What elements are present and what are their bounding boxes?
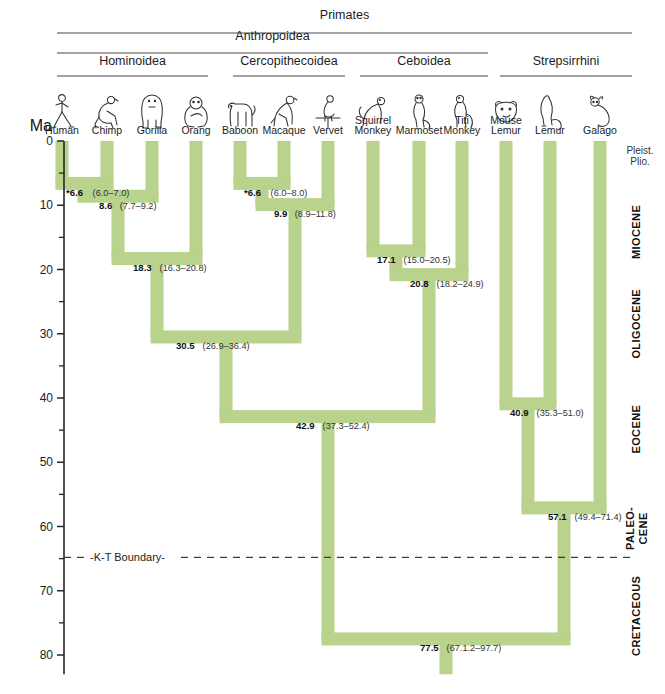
clade-label: Primates bbox=[320, 8, 369, 22]
clade-Ceboidea: Ceboidea bbox=[360, 54, 488, 76]
node-ci: (37.3–52.4) bbox=[323, 421, 370, 431]
epoch-cretaceous: CRETACEOUS bbox=[630, 576, 642, 656]
taxon-vervet: Vervet bbox=[313, 124, 343, 136]
node-label-great-apes: 18.3(16.3–20.8) bbox=[133, 262, 207, 273]
epoch-label: EOCENE bbox=[630, 405, 642, 454]
clade-bracket-group: PrimatesAnthropoideaHominoideaCercopithe… bbox=[57, 8, 632, 76]
terminal-branch-marmoset bbox=[413, 141, 426, 251]
epoch-label: OLIGOCENE bbox=[630, 289, 642, 359]
node-ci: (35.3–51.0) bbox=[537, 408, 584, 418]
clade-label: Cercopithecoidea bbox=[240, 54, 337, 68]
clade-Primates: Primates bbox=[57, 8, 632, 33]
taxon-label: Vervet bbox=[313, 124, 343, 136]
node-ci: (16.3–20.8) bbox=[160, 263, 207, 273]
axis-tick-label: 40 bbox=[40, 391, 54, 405]
taxon-label: Lemur bbox=[491, 124, 521, 136]
clade-Cercopithecoidea: Cercopithecoidea bbox=[233, 54, 345, 76]
node-label-catarrhines: 30.5(26.9–36.4) bbox=[176, 340, 250, 351]
terminal-branch-lemur bbox=[544, 141, 557, 404]
node-ci: (15.0–20.5) bbox=[404, 255, 451, 265]
taxon-titi-monkey: TitiMonkey bbox=[444, 114, 482, 136]
primate-phylogeny-figure: PrimatesAnthropoideaHominoideaCercopithe… bbox=[0, 0, 665, 694]
human-icon bbox=[52, 95, 74, 128]
clade-label: Hominoidea bbox=[99, 54, 166, 68]
node-age: *6.6 bbox=[244, 187, 261, 198]
node-label-human-chimp: *6.6(6.0–7.0) bbox=[66, 187, 129, 198]
epoch-pleistocene-pliocene: Pleist.Plio. bbox=[626, 145, 653, 167]
terminal-branch-mouse-lemur bbox=[500, 141, 513, 404]
kt-boundary-label: -K-T Boundary- bbox=[90, 551, 165, 563]
axis-tick-label: 20 bbox=[40, 263, 54, 277]
axis-tick-label: 30 bbox=[40, 327, 54, 341]
taxon-label: Lemur bbox=[535, 124, 565, 136]
node-age: 30.5 bbox=[176, 340, 195, 351]
terminal-branch-gorilla bbox=[146, 141, 159, 196]
epoch-label: PALEO- bbox=[624, 507, 636, 550]
galago-icon bbox=[590, 96, 609, 126]
epoch-label: CENE bbox=[637, 512, 649, 544]
epoch-label: Plio. bbox=[630, 156, 649, 167]
taxon-label: Marmoset bbox=[396, 124, 443, 136]
axis-tick-label: 10 bbox=[40, 198, 54, 212]
taxon-macaque: Macaque bbox=[262, 124, 305, 136]
node-ci: (26.9–36.4) bbox=[203, 341, 250, 351]
node-age: 42.9 bbox=[296, 420, 315, 431]
node-label-ceboids: 20.8(18.2–24.9) bbox=[410, 278, 484, 289]
node-label-strepsirrhines: 57.1(49.4–71.4) bbox=[548, 511, 622, 522]
epoch-label: CRETACEOUS bbox=[630, 576, 642, 656]
epoch-miocene: MIOCENE bbox=[630, 205, 642, 259]
kt-boundary-group: -K-T Boundary- bbox=[64, 549, 632, 564]
epoch-paleocene: PALEO-CENE bbox=[624, 507, 649, 550]
clade-label: Anthropoidea bbox=[235, 29, 309, 43]
axis-tick-label: 70 bbox=[40, 584, 54, 598]
node-ci: (18.2–24.9) bbox=[437, 279, 484, 289]
node-ci: (67.1.2–97.7) bbox=[447, 643, 502, 653]
node-label-anthropoids: 42.9(37.3–52.4) bbox=[296, 420, 370, 431]
node-ci: (8.9–11.8) bbox=[295, 209, 336, 219]
axis-tick-label: 80 bbox=[40, 648, 54, 662]
time-axis: Ma01020304050607080 bbox=[30, 117, 64, 674]
taxon-label: Gorilla bbox=[137, 124, 168, 136]
taxon-baboon: Baboon bbox=[222, 124, 258, 136]
connector-cerco-to-catarrhines bbox=[289, 205, 302, 337]
taxon-squirrel-monkey: SquirrelMonkey bbox=[355, 114, 393, 136]
node-label-hominines: 8.6(7.7–9.2) bbox=[99, 200, 156, 211]
axis-tick-label: 0 bbox=[46, 134, 53, 148]
node-label-squirrel-marmoset: 17.1(15.0–20.5) bbox=[377, 254, 451, 265]
taxon-label: Monkey bbox=[355, 124, 393, 136]
connector-strepsirrhines-to-root bbox=[558, 508, 571, 639]
epoch-eocene: EOCENE bbox=[630, 405, 642, 454]
connector-lemurs-to-strepsirrhines bbox=[522, 404, 535, 508]
taxon-mouse-lemur: MouseLemur bbox=[490, 114, 522, 136]
connector-anthropoids-to-root bbox=[322, 417, 335, 639]
axis-tick-label: 50 bbox=[40, 455, 54, 469]
node-age: 18.3 bbox=[133, 262, 152, 273]
node-age: 17.1 bbox=[377, 254, 396, 265]
terminal-branch-galago bbox=[594, 141, 607, 508]
node-age: 77.5 bbox=[420, 642, 439, 653]
terminal-branch-vervet bbox=[322, 141, 335, 205]
taxon-orang: Orang bbox=[181, 124, 210, 136]
taxon-label: Monkey bbox=[444, 124, 482, 136]
node-label-mouse-lemur-lemur: 40.9(35.3–51.0) bbox=[510, 407, 584, 418]
node-ci: (49.4–71.4) bbox=[575, 512, 622, 522]
clade-label: Ceboidea bbox=[397, 54, 451, 68]
node-age: 40.9 bbox=[510, 407, 529, 418]
taxon-label: Galago bbox=[583, 124, 617, 136]
taxon-gorilla: Gorilla bbox=[137, 124, 168, 136]
taxon-chimp: Chimp bbox=[92, 124, 123, 136]
node-age: 9.9 bbox=[274, 208, 287, 219]
taxon-label: Baboon bbox=[222, 124, 258, 136]
epoch-oligocene: OLIGOCENE bbox=[630, 289, 642, 359]
terminal-branch-squirrel-monkey bbox=[367, 141, 380, 251]
taxon-marmoset: Marmoset bbox=[396, 124, 443, 136]
node-age: *6.6 bbox=[66, 187, 83, 198]
node-ci: (7.7–9.2) bbox=[120, 201, 157, 211]
terminal-branch-orang bbox=[190, 141, 203, 259]
macaque-icon bbox=[271, 96, 297, 126]
node-ci: (6.0–8.0) bbox=[271, 188, 308, 198]
taxon-label: Macaque bbox=[262, 124, 305, 136]
axis-tick-label: 60 bbox=[40, 520, 54, 534]
taxon-label: Chimp bbox=[92, 124, 123, 136]
node-age: 20.8 bbox=[410, 278, 429, 289]
